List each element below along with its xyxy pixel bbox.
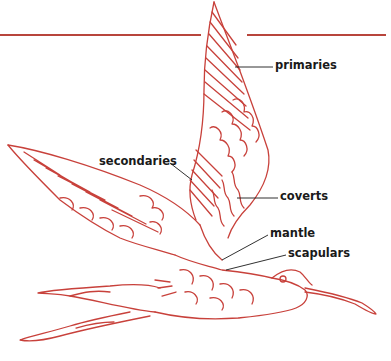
- bird-illustration: [0, 0, 391, 361]
- label-primaries: primaries: [275, 60, 337, 72]
- bird-diagram: primaries secondaries coverts mantle sca…: [0, 0, 391, 361]
- bird-drawing: [8, 2, 376, 341]
- leader-mantle: [222, 235, 268, 260]
- label-mantle: mantle: [270, 228, 315, 240]
- label-scapulars: scapulars: [288, 248, 350, 260]
- leader-scapulars: [226, 255, 286, 270]
- label-coverts: coverts: [280, 191, 328, 203]
- label-secondaries: secondaries: [99, 156, 177, 168]
